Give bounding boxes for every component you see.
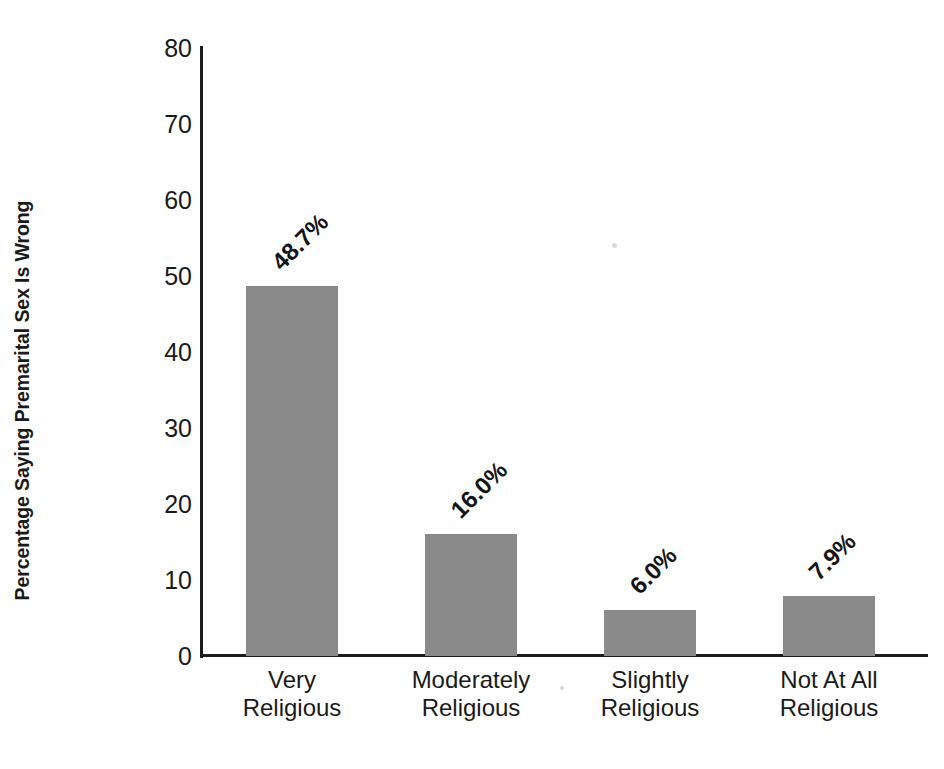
bar-group: 16.0% — [425, 48, 517, 656]
y-axis-tick-label: 40 — [144, 338, 192, 367]
x-axis-category-label: Very Religious — [192, 666, 392, 722]
x-axis-category-label: Slightly Religious — [550, 666, 750, 722]
y-axis-tick-labels: 01020304050607080 — [140, 0, 192, 769]
bar-group: 7.9% — [783, 48, 875, 656]
bar-chart: Percentage Saying Premarital Sex Is Wron… — [0, 0, 944, 769]
y-axis-tick-label: 80 — [144, 34, 192, 63]
bar — [425, 534, 517, 656]
x-axis-category-label: Moderately Religious — [371, 666, 571, 722]
y-axis-title-text: Percentage Saying Premarital Sex Is Wron… — [11, 201, 34, 601]
scan-artifact — [560, 686, 564, 690]
bar — [604, 610, 696, 656]
y-axis-tick-label: 0 — [144, 642, 192, 671]
bar-value-label: 16.0% — [445, 456, 513, 524]
scan-artifact — [612, 243, 617, 248]
y-axis-tick-label: 10 — [144, 566, 192, 595]
y-axis-tick-label: 20 — [144, 490, 192, 519]
y-axis-tick-label: 70 — [144, 110, 192, 139]
bar — [246, 286, 338, 656]
bar-group: 48.7% — [246, 48, 338, 656]
y-axis-tick-label: 50 — [144, 262, 192, 291]
bar — [783, 596, 875, 656]
bar-value-label: 7.9% — [803, 527, 861, 585]
bar-value-label: 48.7% — [266, 208, 334, 276]
y-axis-title: Percentage Saying Premarital Sex Is Wron… — [0, 0, 44, 769]
y-axis-tick-label: 60 — [144, 186, 192, 215]
x-axis-category-label: Not At All Religious — [729, 666, 929, 722]
bar-group: 6.0% — [604, 48, 696, 656]
plot-area: 48.7%16.0%6.0%7.9% — [203, 48, 918, 656]
y-axis-tick-label: 30 — [144, 414, 192, 443]
bar-value-label: 6.0% — [624, 542, 682, 600]
